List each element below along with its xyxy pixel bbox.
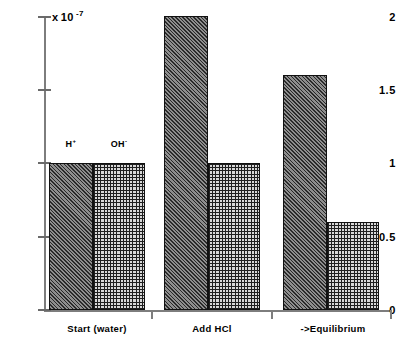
- series-label-oh: OH-: [111, 138, 128, 149]
- x-axis-tick: [151, 310, 153, 319]
- bar-add-hcl-h: [164, 16, 208, 310]
- bar-equilibrium-h: [283, 75, 327, 310]
- bar-start-water-oh: [93, 163, 145, 310]
- axis-multiplier-label: x10-7: [52, 9, 84, 23]
- x-axis-tick: [271, 310, 273, 319]
- bar-start-water-h: [49, 163, 93, 310]
- series-label-oh-text: OH: [111, 139, 125, 149]
- x-axis-line: [44, 310, 392, 312]
- y-axis-tick: [38, 16, 51, 18]
- multiplier-exponent: -7: [76, 9, 84, 18]
- y-axis-tick-label: 1: [362, 157, 396, 169]
- x-axis-category-label: Start (water): [67, 323, 126, 334]
- series-label-h: H+: [66, 138, 77, 149]
- bar-equilibrium-oh: [327, 222, 379, 310]
- y-axis-tick: [38, 89, 51, 91]
- x-axis-category-label: ->Equilibrium: [301, 323, 366, 334]
- series-label-oh-charge: -: [125, 138, 127, 144]
- y-axis-tick-label: 2: [362, 11, 396, 23]
- series-label-h-charge: +: [73, 138, 77, 144]
- bar-chart: x10-7 2 1.5 1 0.5 0 H+ OH- Start (water)…: [0, 0, 396, 349]
- multiplier-times: x: [52, 11, 59, 23]
- y-axis-line: [44, 17, 46, 312]
- x-axis-tick: [390, 310, 392, 319]
- y-axis-tick-label: 1.5: [362, 84, 396, 96]
- bar-add-hcl-oh: [208, 163, 260, 310]
- multiplier-base: 10: [61, 11, 74, 23]
- series-label-h-text: H: [66, 139, 73, 149]
- x-axis-category-label: Add HCl: [192, 323, 232, 334]
